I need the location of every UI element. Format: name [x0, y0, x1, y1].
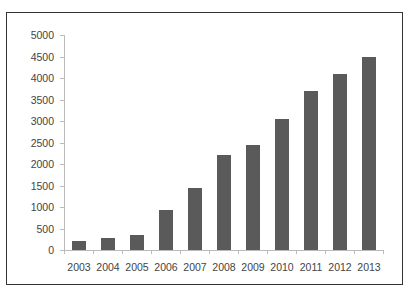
x-tick	[209, 250, 210, 254]
y-tick	[60, 35, 64, 36]
y-tick	[60, 207, 64, 208]
y-tick-label: 3500	[14, 94, 54, 106]
x-tick	[64, 250, 65, 254]
bar-2012	[333, 74, 347, 250]
y-tick-label: 3000	[14, 115, 54, 127]
x-tick	[122, 250, 123, 254]
bar-2003	[72, 241, 86, 250]
y-tick	[60, 100, 64, 101]
bar-2010	[275, 119, 289, 250]
x-tick	[296, 250, 297, 254]
x-tick	[267, 250, 268, 254]
y-tick-label: 1500	[14, 180, 54, 192]
x-tick	[238, 250, 239, 254]
y-tick-label: 1000	[14, 201, 54, 213]
y-tick-label: 500	[14, 223, 54, 235]
x-tick-label: 2007	[180, 261, 210, 273]
bar-2007	[188, 188, 202, 250]
y-tick-label: 5000	[14, 29, 54, 41]
x-tick-label: 2011	[296, 261, 326, 273]
y-axis	[64, 35, 65, 251]
y-tick-label: 2000	[14, 158, 54, 170]
bar-2011	[304, 91, 318, 250]
y-tick-label: 0	[14, 244, 54, 256]
x-tick	[354, 250, 355, 254]
x-tick-label: 2010	[267, 261, 297, 273]
y-tick	[60, 121, 64, 122]
bar-2006	[159, 210, 173, 250]
bar-2013	[362, 57, 376, 250]
bar-2008	[217, 155, 231, 250]
x-tick	[93, 250, 94, 254]
x-tick-label: 2003	[64, 261, 94, 273]
x-tick	[383, 250, 384, 254]
x-tick-label: 2004	[93, 261, 123, 273]
y-tick	[60, 143, 64, 144]
x-tick	[325, 250, 326, 254]
y-tick-label: 4000	[14, 72, 54, 84]
y-tick-label: 2500	[14, 137, 54, 149]
y-tick	[60, 229, 64, 230]
y-tick	[60, 78, 64, 79]
bar-2009	[246, 145, 260, 250]
x-tick	[151, 250, 152, 254]
x-tick-label: 2013	[354, 261, 384, 273]
y-tick-label: 4500	[14, 51, 54, 63]
x-tick-label: 2008	[209, 261, 239, 273]
y-tick	[60, 186, 64, 187]
x-tick-label: 2005	[122, 261, 152, 273]
y-tick	[60, 57, 64, 58]
bar-2005	[130, 235, 144, 250]
bar-chart: 0500100015002000250030003500400045005000…	[0, 0, 410, 294]
y-tick	[60, 164, 64, 165]
x-axis	[64, 250, 383, 251]
x-tick-label: 2009	[238, 261, 268, 273]
x-tick-label: 2006	[151, 261, 181, 273]
x-tick	[180, 250, 181, 254]
bar-2004	[101, 238, 115, 250]
x-tick-label: 2012	[325, 261, 355, 273]
